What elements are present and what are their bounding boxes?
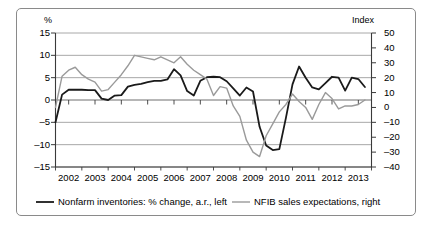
y-tick-label-left: 5 [20, 73, 50, 83]
x-tick-label: 2007 [187, 173, 213, 183]
chart-figure: % Index 151050–5–10–15 50403020100–10–20… [0, 0, 434, 232]
x-tick-label: 2010 [266, 173, 292, 183]
y-tick-label-right: –30 [384, 147, 414, 157]
legend-label-1: NFIB sales expectations, right [254, 197, 380, 207]
gridlines [56, 33, 372, 167]
y-tick-label-right: –40 [384, 162, 414, 172]
y-tick-label-left: –15 [20, 162, 50, 172]
y-tick-label-right: –20 [384, 132, 414, 142]
data-series-lines [56, 55, 365, 156]
legend-label-0: Nonfarm inventories: % change, a.r., lef… [58, 197, 227, 207]
x-tick-label: 2004 [108, 173, 134, 183]
y-tick-label-right: 30 [384, 58, 414, 68]
y-tick-label-left: 15 [20, 28, 50, 38]
x-tick-label: 2006 [161, 173, 187, 183]
y-tick-label-right: 50 [384, 28, 414, 38]
x-tick-marks [56, 100, 372, 171]
y-tick-label-left: –10 [20, 140, 50, 150]
x-tick-label: 2008 [214, 173, 240, 183]
x-tick-label: 2011 [293, 173, 319, 183]
series-line-0 [56, 67, 365, 151]
y-tick-marks-right [372, 33, 377, 167]
y-tick-label-left: 0 [20, 95, 50, 105]
y-tick-label-right: 10 [384, 88, 414, 98]
y-tick-marks-left [51, 33, 56, 167]
y-tick-label-right: 0 [384, 102, 414, 112]
x-tick-label: 2002 [56, 173, 82, 183]
y-tick-label-right: 40 [384, 43, 414, 53]
y-tick-label-right: 20 [384, 73, 414, 83]
x-tick-label: 2009 [240, 173, 266, 183]
y-tick-label-right: –10 [384, 117, 414, 127]
series-line-1 [56, 55, 365, 156]
x-tick-label: 2012 [319, 173, 345, 183]
y-tick-label-left: 10 [20, 50, 50, 60]
x-tick-label: 2013 [345, 173, 371, 183]
y-tick-label-left: –5 [20, 117, 50, 127]
x-tick-label: 2003 [82, 173, 108, 183]
x-tick-label: 2005 [135, 173, 161, 183]
